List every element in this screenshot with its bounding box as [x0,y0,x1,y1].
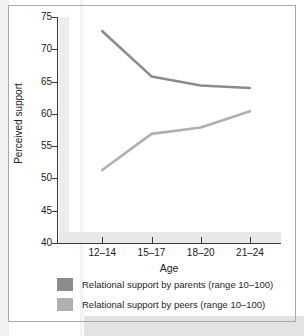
legend-swatch-icon [57,278,73,291]
legend-item-label: Relational support by peers (range 10–10… [82,299,265,310]
figure-root: 4045505560657075 12–1415–1718–2021–24 Pe… [0,0,304,336]
legend-item: Relational support by peers (range 10–10… [57,295,297,313]
legend: Relational support by parents (range 10–… [57,275,297,315]
legend-item: Relational support by parents (range 10–… [57,275,297,293]
series-line-parents [102,31,250,88]
series-line-peers [102,111,250,170]
legend-swatch-icon [57,298,73,311]
legend-item-label: Relational support by parents (range 10–… [82,279,273,290]
